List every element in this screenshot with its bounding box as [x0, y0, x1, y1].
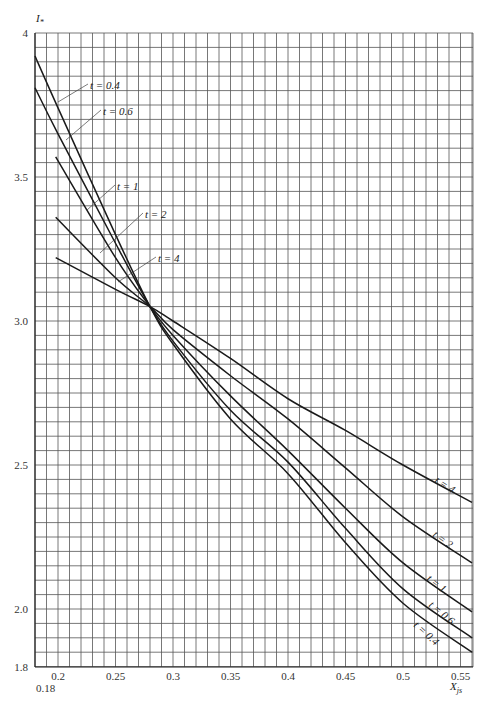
x-tick-label: 0.5 [396, 670, 410, 682]
label-t-1-right: t = 1 [425, 572, 449, 595]
x-tick-label: 0.25 [106, 670, 126, 682]
label-t-1-left: t = 1 [117, 180, 138, 192]
curve-t1 [56, 157, 472, 612]
curve-t4 [56, 258, 472, 503]
line-chart: 0.20.250.30.350.40.450.50.5543.53.02.52.… [0, 0, 490, 710]
x-tick-label: 0.3 [166, 670, 180, 682]
y-tick-label: 1.8 [14, 661, 28, 673]
y-tick-label: 3.0 [14, 315, 28, 327]
curve-t2 [56, 217, 472, 563]
y-tick-label: 4 [23, 27, 29, 39]
x-tick-label: 0.2 [51, 670, 65, 682]
x-tick-label: 0.4 [281, 670, 295, 682]
leader-line [58, 84, 88, 102]
y-tick-label: 2.0 [14, 603, 28, 615]
x-origin-label: 0.18 [36, 682, 56, 694]
x-tick-label: 0.45 [336, 670, 356, 682]
y-tick-label: 3.5 [14, 171, 28, 183]
label-t-2-left: t = 2 [145, 208, 167, 220]
y-tick-label: 2.5 [14, 459, 28, 471]
label-t-0.6-right: t = 0.6 [427, 598, 458, 627]
label-t-2-right: t = 2 [431, 528, 456, 551]
y-axis-label: I* [35, 12, 44, 27]
label-t-0.4-left: t = 0.4 [90, 79, 120, 91]
grid [35, 33, 473, 667]
label-t-4-left: t = 4 [158, 252, 180, 264]
x-tick-label: 0.35 [221, 670, 241, 682]
label-t-0.6-left: t = 0.6 [103, 105, 133, 117]
x-axis-label: Xjs [449, 680, 462, 695]
leader-line [66, 110, 101, 140]
